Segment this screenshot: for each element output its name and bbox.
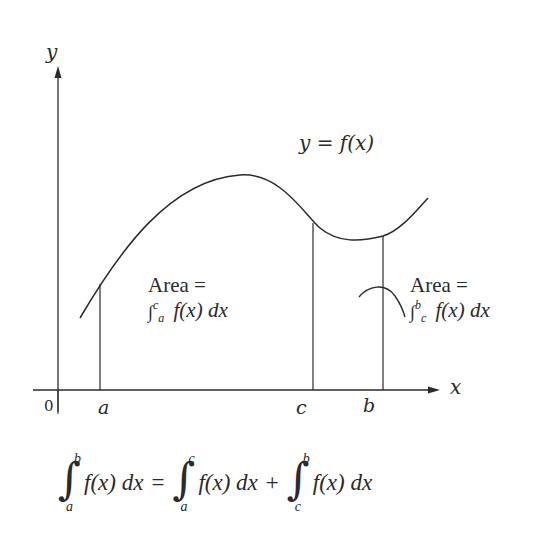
lhs-lower: a [66,499,73,515]
left-area-lower: a [158,311,164,325]
equals-sign: = [151,470,164,496]
point-label-a: a [98,398,109,417]
additivity-equation: ∫ b a f(x) dx = ∫ c a f(x) dx + ∫ b c f(… [58,455,372,511]
x-axis-arrow-icon [428,387,440,394]
point-label-b: b [363,396,375,415]
curve-label: y = f(x) [299,133,374,153]
rhs1-upper: c [188,451,194,467]
rhs2-integrand: f(x) dx [313,470,372,496]
integral-sign-icon: ∫ [410,302,415,322]
integral-sign-icon: ∫ [148,302,153,322]
plus-sign: + [266,470,279,496]
rhs2-upper: b [303,451,310,467]
rhs1-integrand: f(x) dx [198,470,257,496]
left-area-title: Area = [148,273,228,298]
rhs1-integral: ∫ c a [172,455,194,511]
rhs2-lower: c [295,499,301,515]
right-area-lower: c [421,311,426,325]
y-axis-label: y [46,42,57,62]
right-area-label: Area = ∫bc f(x) dx [410,273,490,323]
right-area-integral: ∫bc f(x) dx [410,298,490,323]
left-area-integrand: f(x) dx [174,298,228,322]
function-curve [80,175,428,318]
left-area-label: Area = ∫ca f(x) dx [148,273,228,323]
origin-label: 0 [44,399,54,414]
right-area-title: Area = [410,273,490,298]
left-area-integral: ∫ca f(x) dx [148,298,228,323]
lhs-integral: ∫ b a [58,455,80,511]
lhs-upper: b [74,451,81,467]
right-area-integrand: f(x) dx [436,298,490,322]
rhs1-lower: a [180,499,187,515]
rhs2-integral: ∫ b c [287,455,309,511]
y-axis-arrow-icon [55,66,62,78]
area-pointer-arc [359,287,405,317]
lhs-integrand: f(x) dx [84,470,143,496]
x-axis-label: x [450,377,461,397]
point-label-c: c [296,398,307,417]
